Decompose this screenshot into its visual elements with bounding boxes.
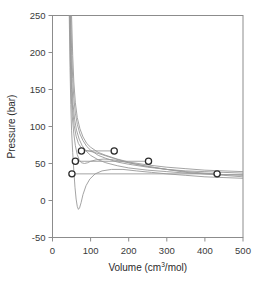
marker-saturation-point-liquid-high	[78, 148, 84, 154]
x-axis-title: Volume (cm3/mol)	[108, 261, 187, 273]
marker-saturation-point-vapor-high	[111, 148, 117, 154]
x-tick-label: 200	[121, 245, 137, 256]
axis-labels-group: -500501001502002500100200300400500Volume…	[6, 10, 251, 273]
y-tick-label: 0	[40, 195, 45, 206]
pressure-volume-chart: -500501001502002500100200300400500Volume…	[0, 0, 264, 290]
y-tick-label: 100	[30, 121, 46, 132]
y-tick-label: 200	[30, 47, 46, 58]
plot-canvas: -500501001502002500100200300400500Volume…	[0, 0, 264, 290]
y-tick-label: -50	[32, 232, 46, 243]
isotherm-curve-isotherm-1-highest	[72, 16, 243, 172]
marker-saturation-point-vapor-low	[214, 171, 220, 177]
isotherm-curve-isotherm-subcritical-2-lowest	[69, 16, 243, 210]
x-tick-label: 500	[235, 245, 251, 256]
x-tick-label: 400	[197, 245, 213, 256]
y-tick-label: 150	[30, 84, 46, 95]
x-tick-label: 300	[159, 245, 175, 256]
x-tick-label: 100	[83, 245, 99, 256]
y-axis-title: Pressure (bar)	[6, 95, 17, 159]
y-tick-label: 250	[30, 10, 46, 21]
marker-saturation-point-vapor-mid	[145, 158, 151, 164]
marker-saturation-point-liquid-mid	[72, 158, 78, 164]
x-tick-label: 0	[50, 245, 55, 256]
y-tick-label: 50	[35, 158, 46, 169]
marker-saturation-point-liquid-low	[69, 171, 75, 177]
isotherm-curves-group	[69, 16, 243, 210]
tie-lines-group	[72, 151, 217, 174]
isotherm-curve-isotherm-2	[71, 16, 243, 174]
